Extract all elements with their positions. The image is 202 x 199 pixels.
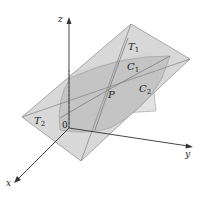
z-axis-arrow-icon xyxy=(67,17,72,24)
z-axis-label: z xyxy=(57,14,63,24)
y-axis-arrow-icon xyxy=(186,144,194,149)
label-p: P xyxy=(107,89,115,100)
origin-label: 0 xyxy=(62,120,68,130)
tangent-plane-diagram: z y x 0 T1 T2 C1 C2 P xyxy=(0,0,202,199)
x-axis-label: x xyxy=(6,178,11,188)
y-axis-label: y xyxy=(184,149,191,159)
x-axis xyxy=(18,128,69,179)
